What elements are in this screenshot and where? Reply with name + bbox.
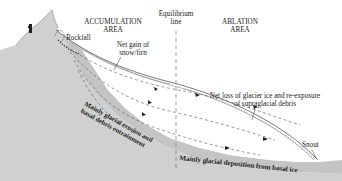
accumulation-line-1: ACCUMULATION — [78, 18, 148, 26]
net-gain-label: Net gain of snow/firn — [110, 41, 156, 57]
rockfall-label: Rockfall — [66, 34, 91, 42]
equilibrium-line-2: line — [150, 18, 202, 26]
net-gain-line-1: Net gain of — [110, 41, 156, 49]
net-loss-line-2: of supraglacial debris — [200, 100, 330, 108]
accumulation-area-label: ACCUMULATION AREA — [78, 18, 148, 34]
ablation-line-2: AREA — [210, 26, 270, 34]
net-loss-label: Net loss of glacier ice and re-exposure … — [200, 92, 330, 108]
ablation-area-label: ABLATION AREA — [210, 18, 270, 34]
net-loss-line-1: Net loss of glacier ice and re-exposure — [200, 92, 330, 100]
equilibrium-line-1: Equilibrium — [150, 10, 202, 18]
accumulation-line-2: AREA — [78, 26, 148, 34]
glacier-diagram — [0, 0, 342, 181]
equilibrium-line-label: Equilibrium line — [150, 10, 202, 26]
net-gain-line-2: snow/firn — [110, 49, 156, 57]
ablation-line-1: ABLATION — [210, 18, 270, 26]
snout-label: Snout — [302, 141, 319, 149]
summit-marker — [29, 24, 32, 33]
